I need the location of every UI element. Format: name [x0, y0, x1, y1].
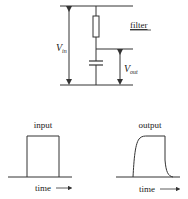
output-waveform	[116, 136, 180, 177]
input-waveform	[8, 136, 72, 177]
output-pulse	[133, 136, 173, 177]
vout-label: Vout	[124, 63, 138, 75]
output-label: output	[138, 120, 162, 130]
rc-filter-diagram: Vin Vout filter input time output time	[0, 0, 188, 199]
input-label: input	[34, 120, 53, 130]
circuit	[60, 6, 133, 85]
filter-title: filter	[130, 20, 148, 30]
input-time-label: time	[35, 183, 51, 193]
vin-label: Vin	[56, 42, 67, 54]
output-time-label: time	[139, 184, 155, 194]
resistor	[93, 16, 99, 37]
input-pulse	[27, 136, 59, 177]
